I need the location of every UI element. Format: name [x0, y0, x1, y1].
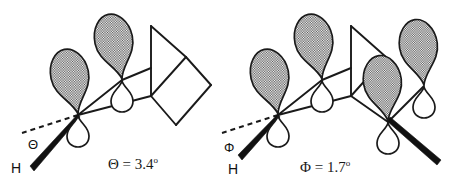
bond-c2-bridge	[122, 68, 151, 80]
p-orbital-r1	[246, 45, 297, 147]
atom-label-h-right: H	[228, 161, 238, 177]
p-orbital-r3	[360, 53, 407, 154]
figure-canvas: Θ H Θ = 3.4o Φ H Φ = 1.7o	[0, 0, 460, 187]
p-orbital-1	[46, 45, 97, 147]
angle-symbol-theta-left: Θ	[28, 137, 38, 152]
p-orbital-r2	[290, 10, 341, 112]
caption-right-text: Φ = 1.7	[300, 159, 346, 175]
bond-c4-c5	[186, 57, 211, 85]
left-molecule	[22, 10, 211, 171]
bond-c3-c4	[151, 57, 186, 96]
caption-left-text: Θ = 3.4	[108, 156, 154, 172]
angle-symbol-phi-right: Φ	[224, 140, 234, 155]
caption-right: Φ = 1.7o	[300, 158, 350, 176]
caption-right-degree: o	[346, 158, 351, 168]
bond-apex-right	[151, 26, 186, 57]
bond-c5-c6	[176, 85, 211, 125]
caption-left: Θ = 3.4o	[108, 155, 158, 173]
atom-label-h-left: H	[11, 160, 21, 176]
molecular-diagram-svg	[0, 0, 460, 187]
bond-r-apex-right	[351, 26, 386, 57]
p-orbital-r4	[396, 17, 443, 118]
bond-r-c2-bridge	[322, 68, 351, 80]
caption-left-degree: o	[154, 155, 159, 165]
right-molecule	[222, 10, 443, 165]
bond-c6-c3	[151, 96, 176, 125]
p-orbital-2	[90, 10, 141, 112]
